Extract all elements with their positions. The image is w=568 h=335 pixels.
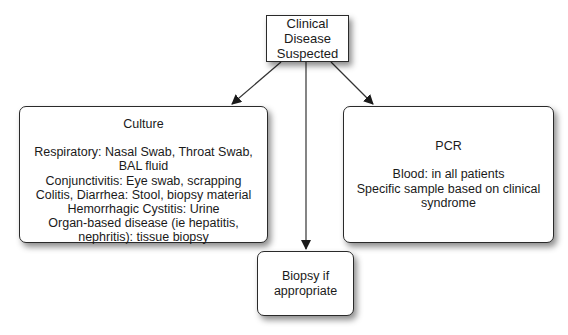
pcr-line: syndrome: [421, 196, 476, 211]
culture-line: Colitis, Diarrhea: Stool, biopsy materia…: [36, 188, 251, 202]
culture-line: Organ-based disease (ie hepatitis,: [48, 216, 238, 230]
culture-line: Hemorrhagic Cystitis: Urine: [67, 202, 219, 216]
biopsy-node: Biopsy if appropriate: [257, 251, 354, 316]
culture-line: BAL fluid: [119, 159, 169, 173]
pcr-node: PCR Blood: in all patients Specific samp…: [343, 106, 554, 243]
root-line: Suspected: [277, 46, 338, 61]
biopsy-line: Biopsy if: [282, 269, 329, 284]
pcr-title: PCR: [435, 139, 461, 154]
clinical-disease-suspected-node: Clinical Disease Suspected: [266, 15, 349, 62]
root-line: Disease: [284, 31, 331, 46]
biopsy-line: appropriate: [274, 284, 337, 299]
root-line: Clinical: [287, 16, 329, 31]
culture-line: Respiratory: Nasal Swab, Throat Swab,: [34, 145, 253, 159]
pcr-line: Specific sample based on clinical: [357, 182, 540, 197]
culture-title: Culture: [123, 117, 163, 131]
culture-line: nephritis): tissue biopsy: [78, 230, 209, 244]
arrow-to-pcr: [331, 62, 373, 104]
arrow-to-culture: [232, 62, 281, 104]
culture-node: Culture Respiratory: Nasal Swab, Throat …: [19, 106, 268, 243]
pcr-line: Blood: in all patients: [393, 167, 505, 182]
culture-line: Conjunctivitis: Eye swab, scrapping: [46, 174, 242, 188]
